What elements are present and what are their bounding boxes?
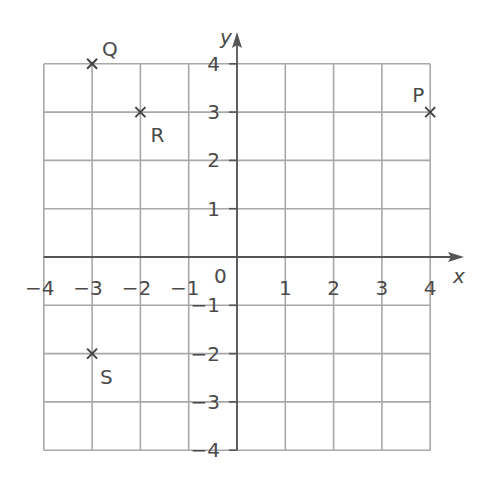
y-tick-label: 4 [207, 52, 220, 76]
point-label: S [100, 365, 113, 389]
x-tick-label: −4 [25, 276, 54, 300]
y-tick-label: −2 [191, 342, 220, 366]
x-tick-label: 3 [376, 276, 389, 300]
point-label: P [412, 83, 424, 107]
plotted-points: PQRS [87, 37, 435, 389]
x-tick-label: 2 [327, 276, 340, 300]
y-tick-label: −4 [191, 438, 220, 462]
y-tick-label: 2 [207, 148, 220, 172]
y-tick-label: −1 [191, 293, 220, 317]
coordinate-plane: xy0−4−3−2−112344321−1−2−3−4 PQRS [0, 0, 497, 477]
x-tick-label: −2 [122, 276, 151, 300]
point-s: S [87, 349, 113, 389]
point-label: R [150, 123, 164, 147]
x-tick-label: 4 [424, 276, 437, 300]
y-tick-label: 1 [207, 197, 220, 221]
x-axis-label: x [452, 264, 465, 288]
y-tick-label: 3 [207, 100, 220, 124]
point-label: Q [102, 37, 118, 61]
tick-labels: xy0−4−3−2−112344321−1−2−3−4 [25, 25, 465, 462]
y-axis-label: y [219, 25, 233, 49]
x-tick-label: 1 [279, 276, 292, 300]
origin-label: 0 [214, 264, 227, 288]
y-tick-label: −3 [191, 390, 220, 414]
x-tick-label: −3 [73, 276, 102, 300]
